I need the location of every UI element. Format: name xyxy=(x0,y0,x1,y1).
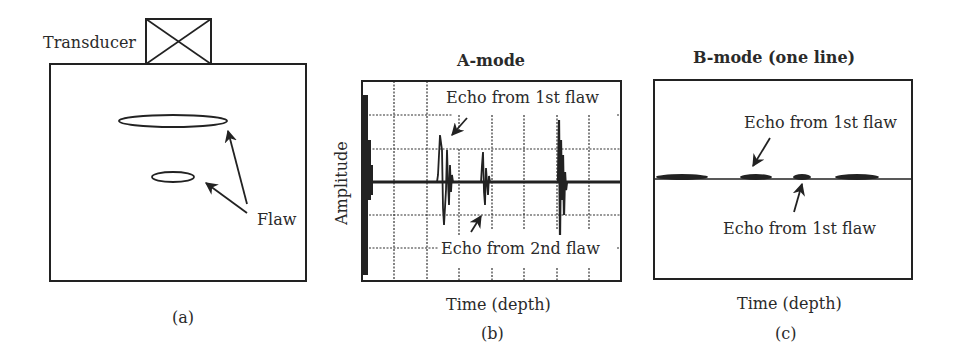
b-mode-time-axis-label: Time (depth) xyxy=(737,294,842,313)
panel-b-a-mode: A-mode Amplitude xyxy=(332,51,621,343)
b-echo-bottom-arrow-icon xyxy=(794,184,802,212)
b-mode-title: B-mode (one line) xyxy=(693,48,855,67)
flaw-2-ellipse xyxy=(152,172,194,182)
a-mode-time-axis-label: Time (depth) xyxy=(446,295,551,314)
flaw-1-arrow-icon xyxy=(228,131,247,204)
flaw-label: Flaw xyxy=(257,210,297,229)
b-echo-top-arrow-icon xyxy=(753,138,770,166)
amplitude-axis-label: Amplitude xyxy=(332,141,351,226)
echo-2nd-arrow-icon xyxy=(471,216,481,232)
panel-a-specimen: Transducer Flaw (a) xyxy=(43,19,306,327)
echo-1st-flaw-label: Echo from 1st flaw xyxy=(446,88,599,107)
transducer-icon xyxy=(146,19,211,64)
echo-2nd-flaw-label: Echo from 2nd flaw xyxy=(441,239,600,258)
caption-c: (c) xyxy=(775,324,796,343)
caption-b: (b) xyxy=(481,324,504,343)
echo-1st-arrow-icon xyxy=(452,118,467,135)
ultrasound-figure: Transducer Flaw (a) A-mode Amplitude xyxy=(0,0,957,360)
flaw-2-arrow-icon xyxy=(206,183,247,213)
b-echo-top-label: Echo from 1st flaw xyxy=(744,113,897,132)
flaw-1-ellipse xyxy=(119,115,227,127)
panel-c-b-mode: B-mode (one line) Echo from 1st flaw Ech… xyxy=(654,48,912,343)
b-echo-bottom-label: Echo from 1st flaw xyxy=(723,219,876,238)
caption-a: (a) xyxy=(172,308,194,327)
transducer-label: Transducer xyxy=(43,33,136,52)
a-mode-title: A-mode xyxy=(456,51,525,70)
